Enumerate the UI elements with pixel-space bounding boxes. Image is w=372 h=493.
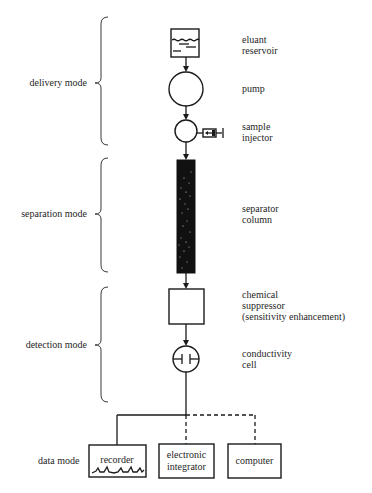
pump-label: pump [242, 83, 265, 94]
packed-column-icon [177, 160, 195, 273]
suppressor-label-line1: chemical [242, 289, 278, 300]
column-label-line1: separator [242, 203, 279, 214]
reservoir-label-line2: reservoir [242, 45, 278, 56]
detection-mode-brace [95, 287, 108, 402]
suppressor-label-line2: suppressor [242, 300, 285, 311]
pump-circle-icon [169, 72, 203, 106]
separation-mode-label: separation mode [21, 208, 87, 219]
flow-arrow [183, 324, 189, 346]
output-connections [117, 372, 255, 445]
injector-label-line2: injector [242, 132, 273, 143]
suppressor-label-line3: (sensitivity enhancement) [242, 311, 345, 323]
syringe-icon [197, 128, 223, 138]
computer-box: computer [228, 444, 281, 478]
electrode-cell-icon [173, 346, 199, 372]
recorder-box: recorder [89, 445, 146, 477]
reservoir-icon [171, 29, 199, 57]
flow-arrow [183, 273, 189, 289]
integrator-label-line1: electronic [167, 449, 207, 460]
recorder-label: recorder [100, 454, 134, 465]
electronic-integrator-box: electronic integrator [159, 444, 214, 478]
data-mode-label: data mode [38, 455, 80, 466]
flow-arrow [183, 106, 189, 120]
delivery-mode-label: delivery mode [30, 77, 88, 88]
ion-chromatography-diagram: delivery mode separation mode detection … [0, 0, 372, 493]
detection-mode-label: detection mode [26, 339, 88, 350]
flow-arrow [183, 57, 189, 72]
injector-circle-icon [175, 120, 197, 142]
flow-arrow [183, 142, 189, 160]
delivery-mode-brace [95, 17, 108, 145]
suppressor-box-icon [169, 289, 204, 324]
cell-label-line1: conductivity [242, 348, 292, 359]
integrator-label-line2: integrator [167, 461, 207, 472]
separation-mode-brace [95, 158, 108, 272]
injector-label-line1: sample [242, 121, 271, 132]
cell-label-line2: cell [242, 359, 257, 370]
reservoir-label-line1: eluant [242, 34, 267, 45]
computer-label: computer [236, 455, 274, 466]
column-label-line2: column [242, 214, 272, 225]
